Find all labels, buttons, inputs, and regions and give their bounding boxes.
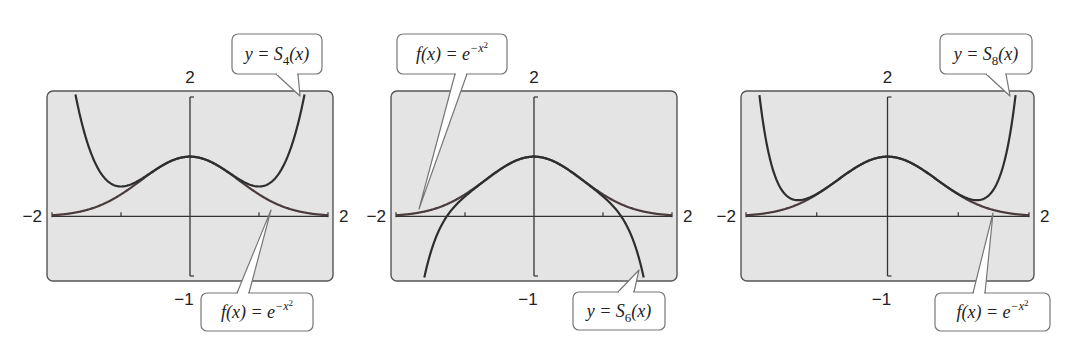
y-max-label: 2	[883, 68, 892, 87]
y-min-label: −1	[872, 290, 891, 309]
taylor-callout: y = S8(x)	[940, 34, 1032, 96]
figure-row: −222−1y = S4(x)f(x) = e−x2−222−1f(x) = e…	[0, 0, 1067, 353]
x-max-label: 2	[683, 207, 692, 226]
y-min-label: −1	[518, 290, 537, 309]
x-min-label: −2	[23, 207, 42, 226]
chart-canvas: −222−1y = S4(x)f(x) = e−x2−222−1f(x) = e…	[0, 0, 1067, 353]
x-max-label: 2	[1040, 207, 1049, 226]
y-min-label: −1	[174, 290, 193, 309]
y-max-label: 2	[185, 68, 194, 87]
x-max-label: 2	[339, 207, 348, 226]
y-max-label: 2	[529, 68, 538, 87]
taylor-callout: y = S4(x)	[232, 34, 322, 96]
x-min-label: −2	[717, 207, 736, 226]
graph-panel-2: −222−1	[367, 68, 693, 309]
x-min-label: −2	[367, 207, 386, 226]
graph-panel-1: −222−1	[23, 68, 349, 309]
graph-panel-3: −222−1	[717, 68, 1050, 309]
